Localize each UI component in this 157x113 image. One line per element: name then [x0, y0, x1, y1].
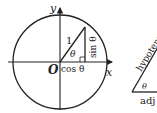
origin-label: O [48, 63, 59, 77]
trig-diagram: y x O 1 θ cos θ sin θ hypotenuse θ adj [0, 0, 157, 113]
triangle-angle-label: θ [142, 82, 147, 91]
adjacent-label: cos θ [61, 64, 84, 74]
opposite-label: sin θ [88, 36, 98, 58]
y-axis-label: y [49, 2, 57, 15]
x-axis-label: x [106, 66, 113, 79]
hypotenuse-label: hypotenuse [134, 23, 157, 73]
adjacent-side-label: adj [140, 95, 155, 106]
unit-circle-figure: y x O 1 θ cos θ sin θ [8, 2, 113, 110]
right-angle-mark [80, 57, 85, 62]
right-triangle-figure: hypotenuse θ adj [132, 23, 157, 106]
radius-label: 1 [66, 35, 72, 46]
angle-label: θ [70, 49, 76, 59]
